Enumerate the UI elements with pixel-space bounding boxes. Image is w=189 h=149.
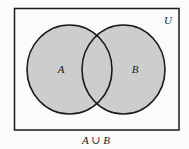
set-a-label: A	[57, 63, 65, 75]
set-b-label: B	[132, 63, 139, 75]
venn-diagram: U A B A ∪ B	[0, 0, 189, 149]
diagram-caption: A ∪ B	[81, 134, 110, 146]
universe-label: U	[164, 14, 173, 26]
